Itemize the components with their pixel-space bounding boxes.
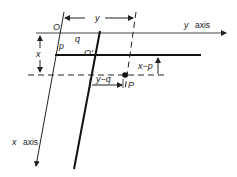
label-x-axis-var: x xyxy=(11,137,17,147)
label-y-minus-q: y−q xyxy=(95,74,111,84)
coordinate-transform-diagram: O p q O' y x y axis x axis x−p y−q P xyxy=(0,0,237,177)
label-y-dim: y xyxy=(94,13,100,23)
label-origin-prime: O' xyxy=(84,48,93,58)
label-y-axis-word: axis xyxy=(195,20,210,30)
label-origin: O xyxy=(53,22,60,32)
point-p-marker xyxy=(122,72,128,78)
x-axis xyxy=(36,12,64,166)
label-x-axis-word: axis xyxy=(23,137,38,147)
label-p: p xyxy=(58,41,64,51)
label-y-axis-var: y xyxy=(183,20,189,30)
label-q: q xyxy=(75,34,80,44)
dashed-line-slanted xyxy=(125,12,136,90)
label-x-minus-p: x−p xyxy=(137,61,153,71)
label-point-p: P xyxy=(128,80,134,90)
label-x-dim: x xyxy=(35,49,41,59)
